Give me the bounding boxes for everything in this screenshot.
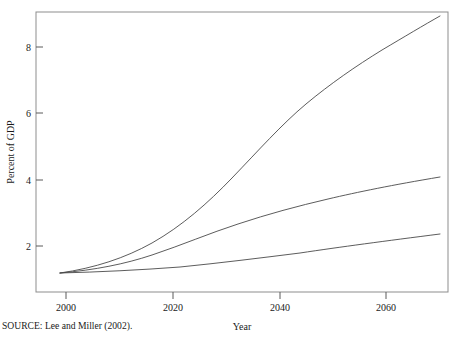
fan-chart: 8 6 4 2 Percent of GDP 2000 <box>0 0 458 338</box>
x-tick-label: 2000 <box>56 302 76 313</box>
x-tick-label: 2020 <box>163 302 183 313</box>
y-tick-label: 2 <box>26 241 31 252</box>
figure-container: 8 6 4 2 Percent of GDP 2000 <box>0 0 458 338</box>
y-tick-label: 4 <box>26 175 31 186</box>
y-tick-label: 6 <box>26 108 31 119</box>
x-tick-2020: 2020 <box>163 292 183 313</box>
x-tick-label: 2060 <box>376 302 396 313</box>
x-tick-label: 2040 <box>270 302 290 313</box>
x-tick-2040: 2040 <box>270 292 290 313</box>
x-tick-2000: 2000 <box>56 292 76 313</box>
y-axis-title: Percent of GDP <box>5 120 16 184</box>
x-axis-title: Year <box>233 321 252 332</box>
source-note: SOURCE: Lee and Miller (2002). <box>2 320 132 331</box>
x-tick-2060: 2060 <box>376 292 396 313</box>
y-tick-label: 8 <box>26 42 31 53</box>
